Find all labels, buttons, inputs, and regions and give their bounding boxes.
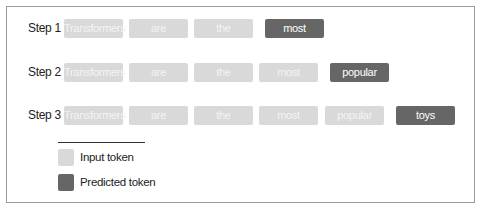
- input-token: the: [194, 63, 253, 82]
- input-token: Transformers: [64, 63, 123, 82]
- input-token: are: [129, 19, 188, 38]
- input-token-swatch: [58, 149, 74, 166]
- predicted-token: popular: [330, 63, 389, 82]
- input-token: the: [194, 19, 253, 38]
- legend-predicted-label: Predicted token: [80, 176, 155, 188]
- input-token: are: [129, 63, 188, 82]
- input-token: most: [259, 106, 318, 125]
- step-label: Step 2: [28, 65, 61, 79]
- input-token: the: [194, 106, 253, 125]
- legend-divider: [58, 142, 145, 143]
- input-token: most: [259, 63, 318, 82]
- predicted-token: toys: [396, 106, 455, 125]
- input-token: popular: [325, 106, 384, 125]
- step-label: Step 1: [28, 21, 61, 35]
- step-label: Step 3: [28, 108, 61, 122]
- input-token: Transformers: [64, 106, 123, 125]
- input-token: Transformers: [64, 19, 123, 38]
- input-token: are: [129, 106, 188, 125]
- predicted-token-swatch: [58, 174, 74, 191]
- predicted-token: most: [265, 19, 324, 38]
- legend-input-label: Input token: [80, 151, 134, 163]
